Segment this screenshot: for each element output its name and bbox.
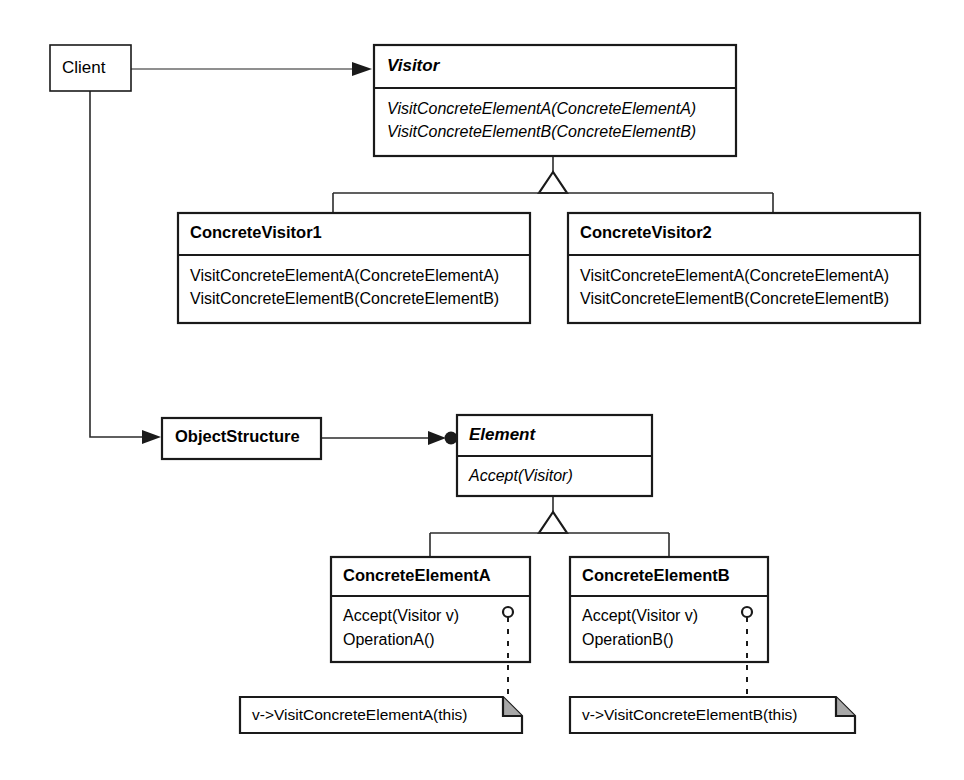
note-box-a[interactable]: v->VisitConcreteElementA(this) xyxy=(240,697,522,733)
class-name-objectstructure: ObjectStructure xyxy=(175,427,300,445)
relation-client-to-visitor xyxy=(131,62,372,76)
class-box-concreteelementb[interactable]: ConcreteElementB Accept(Visitor v) Opera… xyxy=(570,557,768,662)
note-anchor-b xyxy=(742,607,752,699)
class-name-visitor: Visitor xyxy=(387,56,441,75)
note-text-a: v->VisitConcreteElementA(this) xyxy=(252,706,468,723)
class-method: VisitConcreteElementB(ConcreteElementB) xyxy=(190,290,499,307)
class-method: VisitConcreteElementA(ConcreteElementA) xyxy=(387,100,696,117)
class-name-concreteelementb: ConcreteElementB xyxy=(582,566,730,584)
class-method: VisitConcreteElementB(ConcreteElementB) xyxy=(580,290,889,307)
note-text-b: v->VisitConcreteElementB(this) xyxy=(582,706,798,723)
class-method: Accept(Visitor) xyxy=(468,467,573,484)
class-name-concretevisitor2: ConcreteVisitor2 xyxy=(580,223,712,241)
class-method: Accept(Visitor v) xyxy=(343,607,459,624)
relation-client-to-objectstructure xyxy=(90,91,161,444)
class-name-client: Client xyxy=(62,58,106,77)
class-box-concretevisitor1[interactable]: ConcreteVisitor1 VisitConcreteElementA(C… xyxy=(178,213,530,323)
relation-element-generalization xyxy=(430,496,669,557)
diagram-canvas: Client Visitor VisitConcreteElementA(Con… xyxy=(0,0,964,780)
class-box-objectstructure[interactable]: ObjectStructure xyxy=(162,418,321,459)
class-method: VisitConcreteElementA(ConcreteElementA) xyxy=(190,267,499,284)
relation-visitor-generalization xyxy=(333,156,773,213)
note-box-b[interactable]: v->VisitConcreteElementB(this) xyxy=(570,697,855,733)
class-method: Accept(Visitor v) xyxy=(582,607,698,624)
class-box-client[interactable]: Client xyxy=(50,45,131,91)
class-box-concretevisitor2[interactable]: ConcreteVisitor2 VisitConcreteElementA(C… xyxy=(568,213,920,323)
class-name-concretevisitor1: ConcreteVisitor1 xyxy=(190,223,322,241)
note-anchor-a xyxy=(503,607,513,699)
class-box-visitor[interactable]: Visitor VisitConcreteElementA(ConcreteEl… xyxy=(374,45,736,156)
class-method: OperationA() xyxy=(343,631,435,648)
class-method: OperationB() xyxy=(582,631,674,648)
relation-objectstructure-to-element xyxy=(321,431,458,445)
class-name-element: Element xyxy=(469,425,536,444)
class-name-concreteelementa: ConcreteElementA xyxy=(343,566,491,584)
class-box-concreteelementa[interactable]: ConcreteElementA Accept(Visitor v) Opera… xyxy=(331,557,530,662)
class-method: VisitConcreteElementB(ConcreteElementB) xyxy=(387,123,696,140)
class-method: VisitConcreteElementA(ConcreteElementA) xyxy=(580,267,889,284)
uml-class-diagram: Client Visitor VisitConcreteElementA(Con… xyxy=(0,0,964,780)
class-box-element[interactable]: Element Accept(Visitor) xyxy=(457,415,652,496)
